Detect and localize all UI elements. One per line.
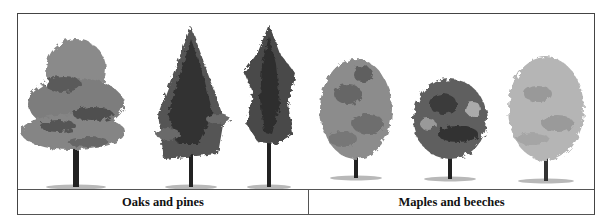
figure-frame: Oaks and pines Maples and beeches (17, 13, 595, 215)
maple-tree-icon (508, 57, 584, 184)
caption-maples-and-beeches: Maples and beeches (309, 190, 594, 215)
pine-tree-icon (244, 24, 296, 189)
maple-tree-icon (320, 59, 392, 181)
beech-tree-icon (413, 79, 487, 182)
pine-tree-icon (156, 26, 230, 189)
caption-row: Oaks and pines Maples and beeches (18, 189, 594, 215)
caption-oaks-and-pines: Oaks and pines (18, 190, 309, 215)
tree-illustrations (18, 14, 594, 189)
oak-tree-icon (21, 39, 125, 189)
